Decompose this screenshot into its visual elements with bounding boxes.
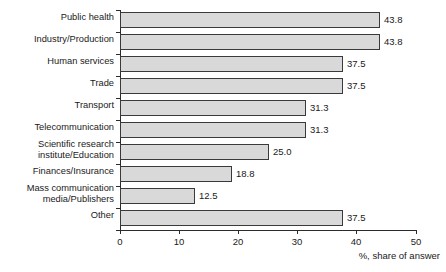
category-label: Industry/Production [0,34,114,45]
bar [120,100,306,116]
x-axis-tick [356,230,357,234]
bar-value-label: 31.3 [310,124,329,135]
x-axis-tick-label: 30 [285,236,309,247]
y-axis-tick [116,98,120,99]
y-axis-tick [116,186,120,187]
y-axis-tick [116,32,120,33]
category-label: Scientific research institute/Education [0,139,114,160]
category-label: Human services [0,56,114,67]
bar-value-label: 18.8 [236,168,255,179]
bar-chart: Public health Industry/Production Human … [0,0,446,272]
bar [120,188,195,204]
category-axis-labels: Public health Industry/Production Human … [0,0,114,232]
x-axis-tick-label: 0 [108,236,132,247]
x-axis-tick-label: 10 [167,236,191,247]
y-axis-tick [116,10,120,11]
category-label: Other [0,210,114,221]
plot-area: 0 10 20 30 40 50 43.8 43.8 37.5 37.5 31.… [120,10,416,230]
category-label: Finances/Insurance [0,166,114,177]
bar-value-label: 37.5 [347,58,366,69]
bar [120,210,343,226]
x-axis-tick-label: 20 [226,236,250,247]
bar-value-label: 12.5 [199,190,218,201]
bar-value-label: 43.8 [384,14,403,25]
bar-value-label: 37.5 [347,212,366,223]
category-label: Public health [0,12,114,23]
x-axis-tick [297,230,298,234]
category-label: Mass communication media/Publishers [0,183,114,204]
category-label: Transport [0,100,114,111]
y-axis-tick [116,164,120,165]
x-axis-tick-label: 40 [344,236,368,247]
y-axis-tick [116,142,120,143]
x-axis-tick [179,230,180,234]
bar [120,166,232,182]
category-label: Telecommunication [0,122,114,133]
x-axis-tick-label: 50 [404,236,428,247]
category-label: Trade [0,78,114,89]
x-axis-line [120,230,417,231]
y-axis-tick [116,54,120,55]
x-axis-tick [238,230,239,234]
bar [120,12,380,28]
bar [120,144,269,160]
y-axis-tick [116,120,120,121]
bar [120,56,343,72]
bar [120,122,306,138]
y-axis-tick [116,208,120,209]
x-axis-caption: %, share of answer [359,250,440,261]
bar-value-label: 31.3 [310,102,329,113]
bar [120,78,343,94]
bar [120,34,380,50]
bar-value-label: 37.5 [347,80,366,91]
y-axis-tick [116,76,120,77]
bar-value-label: 43.8 [384,36,403,47]
x-axis-tick [416,230,417,234]
x-axis-tick [120,230,121,234]
bar-value-label: 25.0 [273,146,292,157]
